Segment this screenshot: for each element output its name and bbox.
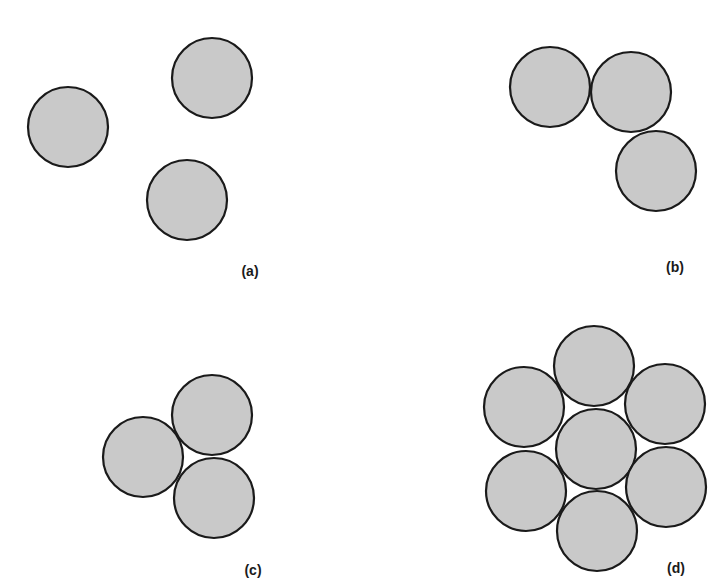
particle-circle <box>554 326 634 406</box>
particle-circle <box>172 38 252 118</box>
particle-circle <box>103 417 183 497</box>
particle-circle <box>486 451 566 531</box>
panel-d: (d) <box>484 326 706 576</box>
particle-circle <box>510 47 590 127</box>
particle-circle <box>626 447 706 527</box>
panel-label: (a) <box>241 263 258 279</box>
panel-c: (c) <box>103 375 262 578</box>
particle-circle <box>556 409 636 489</box>
particle-circle <box>484 367 564 447</box>
panel-a: (a) <box>28 38 259 279</box>
particle-aggregation-diagram: (a) (b) (c) (d) <box>0 0 726 588</box>
panel-b: (b) <box>510 47 696 275</box>
panel-label: (b) <box>666 259 684 275</box>
particle-circle <box>172 375 252 455</box>
particle-circle <box>174 458 254 538</box>
particle-circle <box>625 364 705 444</box>
panel-label: (c) <box>244 562 261 578</box>
particle-circle <box>591 52 671 132</box>
particle-circle <box>147 160 227 240</box>
panel-label: (d) <box>667 560 685 576</box>
particle-circle <box>557 491 637 571</box>
particle-circle <box>616 131 696 211</box>
particle-circle <box>28 87 108 167</box>
